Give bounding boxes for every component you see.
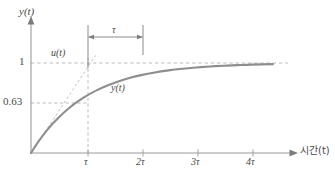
y-tick-label-one: 1: [19, 56, 25, 67]
y-axis-arrow-head: [28, 16, 35, 25]
chart-figure: y(t) 시간(t) 1 0.63 u(t) y(t) τ τ 2τ 3τ 4τ: [0, 0, 335, 178]
x-tick-label-2tau: 2τ: [136, 157, 145, 167]
tau-span-label: τ: [112, 25, 116, 35]
x-tick-label-4tau: 4τ: [246, 157, 255, 167]
response-curve-y-of-t: [31, 64, 273, 153]
y-axis-label: y(t): [19, 6, 34, 17]
tau-span-arrow-head-left: [88, 35, 94, 40]
tau-span-arrow-head-right: [137, 35, 143, 40]
x-tick-label-3tau: 3τ: [191, 157, 200, 167]
y-tick-label-063: 0.63: [3, 96, 22, 107]
input-signal-label: u(t): [51, 48, 65, 58]
x-axis-arrow-head: [290, 150, 299, 157]
output-signal-label: y(t): [111, 83, 125, 93]
x-tick-label-tau: τ: [84, 157, 88, 167]
plot-canvas: [0, 0, 335, 178]
x-axis-label: 시간(t): [300, 146, 330, 156]
